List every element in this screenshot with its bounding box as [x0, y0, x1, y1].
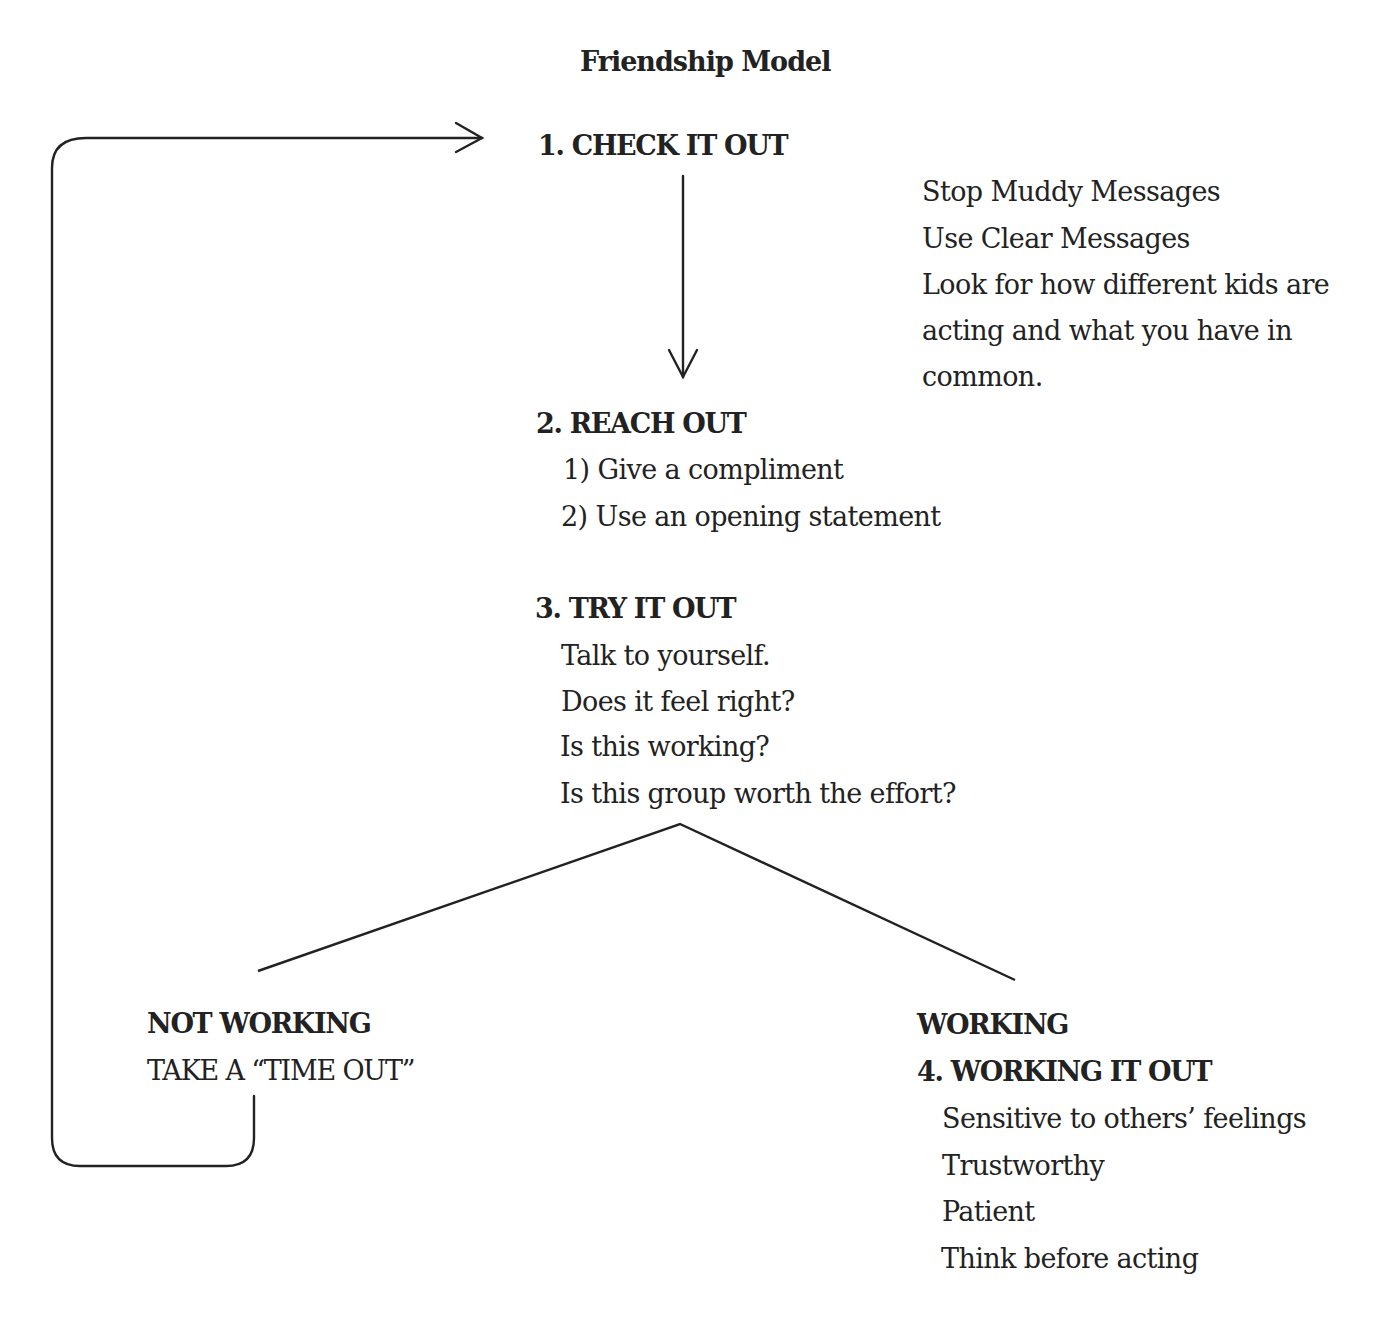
- working-item: Trustworthy: [942, 1152, 1104, 1179]
- step-check-heading: 1. CHECK IT OUT: [538, 132, 787, 159]
- working-heading: WORKING: [917, 1011, 1068, 1038]
- not-working-heading: NOT WORKING: [147, 1010, 371, 1037]
- working-item: Sensitive to others’ feelings: [942, 1105, 1306, 1132]
- step-working-heading: 4. WORKING IT OUT: [917, 1058, 1211, 1085]
- diagram-title: Friendship Model: [580, 48, 830, 75]
- working-item: Think before acting: [941, 1245, 1198, 1272]
- check-note: Look for how different kids are: [922, 271, 1329, 298]
- down-arrow-icon: [669, 176, 697, 377]
- try-item: Does it feel right?: [561, 688, 795, 715]
- step-try-heading: 3. TRY IT OUT: [535, 595, 735, 622]
- branch-lines: [258, 824, 1015, 980]
- step-reach-heading: 2. REACH OUT: [536, 410, 746, 437]
- reach-item: 1) Give a compliment: [563, 456, 843, 483]
- not-working-action: TAKE A “TIME OUT”: [147, 1057, 414, 1084]
- try-item: Is this group worth the effort?: [560, 780, 956, 807]
- working-item: Patient: [942, 1198, 1035, 1225]
- reach-item: 2) Use an opening statement: [561, 503, 941, 530]
- try-item: Talk to yourself.: [561, 642, 770, 669]
- check-note: Use Clear Messages: [922, 225, 1190, 252]
- try-item: Is this working?: [560, 733, 769, 760]
- check-note: Stop Muddy Messages: [922, 178, 1220, 205]
- check-note: common.: [922, 363, 1043, 390]
- check-note: acting and what you have in: [922, 317, 1292, 344]
